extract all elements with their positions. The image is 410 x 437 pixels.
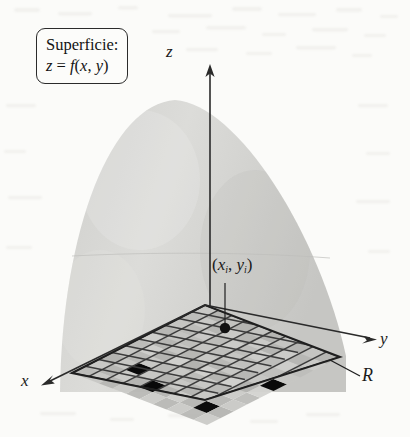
- sample-point-label: (xi, yi): [212, 256, 253, 273]
- point-comma: ,: [228, 255, 237, 274]
- z-axis-label: z: [166, 43, 173, 60]
- callout-comma: ,: [87, 56, 95, 75]
- callout-arg-y: y: [96, 56, 103, 75]
- surface-callout: Superficie: z = f(x, y): [36, 28, 128, 84]
- callout-paren-close: ): [103, 56, 109, 75]
- point-paren-close: ): [247, 255, 253, 274]
- x-axis-label: x: [21, 372, 29, 389]
- y-axis-label: y: [380, 330, 388, 347]
- sample-point-dot: [220, 323, 230, 333]
- surface-callout-line1: Superficie:: [46, 34, 118, 55]
- callout-equals: =: [52, 56, 70, 75]
- surface-over-region-figure: Superficie: z = f(x, y) z y x R (xi, yi): [0, 0, 410, 437]
- point-y-subscript: i: [244, 264, 247, 275]
- point-y-var: y: [237, 255, 245, 274]
- surface-callout-line2: z = f(x, y): [46, 55, 118, 76]
- region-label: R: [362, 366, 373, 384]
- point-x-subscript: i: [225, 264, 228, 275]
